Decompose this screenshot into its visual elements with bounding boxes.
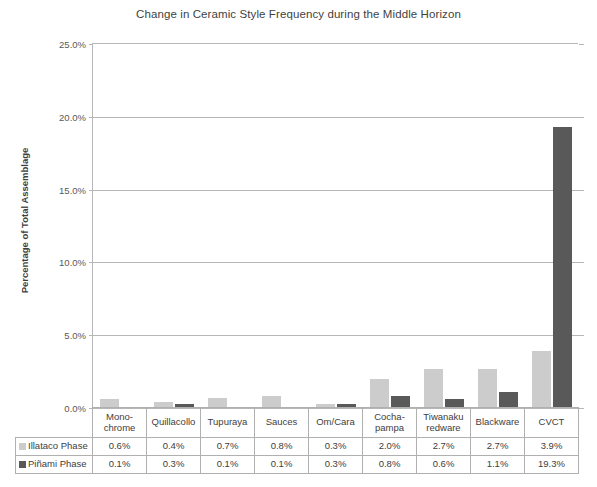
table-cell-value: 2.7% — [417, 438, 471, 456]
table-column-header: Quillacollo — [147, 408, 201, 438]
table-column-header: Sauces — [255, 408, 309, 438]
table-column-header: Om/Cara — [309, 408, 363, 438]
table-column-header: Blackware — [471, 408, 525, 438]
y-axis-tick-label: 10.0% — [59, 257, 86, 268]
table-header-row: Mono-chromeQuillacolloTupurayaSaucesOm/C… — [16, 408, 579, 438]
table-cell-value: 0.6% — [93, 438, 147, 456]
y-tick-mark-right — [579, 190, 584, 191]
bar-group — [309, 44, 363, 408]
column-header-line: redware — [419, 423, 468, 434]
y-tick-mark-right — [579, 408, 584, 409]
chart-title: Change in Ceramic Style Frequency during… — [0, 8, 597, 20]
y-axis-tick-label: 15.0% — [59, 184, 86, 195]
y-tick-mark-right — [579, 262, 584, 263]
table-cell-value: 2.0% — [363, 438, 417, 456]
table-cell-value: 1.1% — [471, 456, 525, 474]
legend-entry[interactable]: Piñami Phase — [16, 456, 93, 474]
table-cell-value: 0.3% — [309, 456, 363, 474]
bar-group — [93, 44, 147, 408]
bar-group — [255, 44, 309, 408]
table-cell-value: 0.8% — [255, 438, 309, 456]
bar-group — [417, 44, 471, 408]
bar-group — [471, 44, 525, 408]
bar[interactable] — [499, 392, 518, 408]
table-column-header: Mono-chrome — [93, 408, 147, 438]
column-header-line: CVCT — [527, 417, 576, 428]
legend-swatch-icon — [19, 443, 26, 450]
legend-swatch-icon — [19, 461, 26, 468]
table-cell-value: 0.7% — [201, 438, 255, 456]
y-axis-tick-label: 5.0% — [64, 330, 86, 341]
plot-area: 0.0%5.0%10.0%15.0%20.0%25.0% — [92, 43, 578, 407]
column-header-line: Quillacollo — [149, 417, 198, 428]
table-cell-value: 19.3% — [525, 456, 579, 474]
column-header-line: pampa — [365, 423, 414, 434]
table-cell-value: 0.1% — [201, 456, 255, 474]
column-header-line: Tiwanaku — [419, 412, 468, 423]
legend-entry[interactable]: Illataco Phase — [16, 438, 93, 456]
table-row: Piñami Phase0.1%0.3%0.1%0.1%0.3%0.8%0.6%… — [16, 456, 579, 474]
table-cell-value: 3.9% — [525, 438, 579, 456]
table-body: Illataco Phase0.6%0.4%0.7%0.8%0.3%2.0%2.… — [16, 438, 579, 474]
column-header-line: chrome — [95, 423, 144, 434]
y-axis-tick-label: 20.0% — [59, 111, 86, 122]
bar-group — [525, 44, 579, 408]
bar[interactable] — [532, 351, 551, 408]
table-column-header: Cocha-pampa — [363, 408, 417, 438]
y-tick-mark-right — [579, 117, 584, 118]
bar[interactable] — [478, 369, 497, 408]
column-header-line: Mono- — [95, 412, 144, 423]
data-table: Mono-chromeQuillacolloTupurayaSaucesOm/C… — [15, 407, 579, 474]
table-cell-value: 0.6% — [417, 456, 471, 474]
table-column-header: CVCT — [525, 408, 579, 438]
legend-label: Piñami Phase — [28, 458, 87, 469]
table-cell-value: 0.8% — [363, 456, 417, 474]
table-cell-value: 2.7% — [471, 438, 525, 456]
table-row: Illataco Phase0.6%0.4%0.7%0.8%0.3%2.0%2.… — [16, 438, 579, 456]
table-cell-value: 0.3% — [147, 456, 201, 474]
table-column-header: Tiwanakuredware — [417, 408, 471, 438]
bar[interactable] — [553, 127, 572, 408]
table-cell-value: 0.3% — [309, 438, 363, 456]
legend-label: Illataco Phase — [28, 440, 88, 451]
bar[interactable] — [370, 379, 389, 408]
bars-layer — [93, 44, 579, 408]
bar[interactable] — [424, 369, 443, 408]
y-tick-mark-right — [579, 335, 584, 336]
table-column-header: Tupuraya — [201, 408, 255, 438]
bar-group — [147, 44, 201, 408]
bar-group — [201, 44, 255, 408]
ceramic-style-frequency-chart: Change in Ceramic Style Frequency during… — [0, 0, 597, 487]
table-cell-value: 0.4% — [147, 438, 201, 456]
y-tick-mark-right — [579, 44, 584, 45]
column-header-line: Om/Cara — [311, 417, 360, 428]
column-header-line: Tupuraya — [203, 417, 252, 428]
y-axis-tick-label: 25.0% — [59, 39, 86, 50]
bar-group — [363, 44, 417, 408]
column-header-line: Sauces — [257, 417, 306, 428]
table-cell-value: 0.1% — [255, 456, 309, 474]
column-header-line: Blackware — [473, 417, 522, 428]
y-axis-title: Percentage of Total Assemblage — [19, 111, 30, 331]
table-corner-cell — [16, 408, 93, 438]
column-header-line: Cocha- — [365, 412, 414, 423]
table-cell-value: 0.1% — [93, 456, 147, 474]
